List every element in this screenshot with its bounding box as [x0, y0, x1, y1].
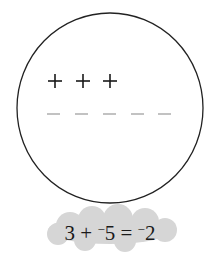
operand-a: 3 [65, 221, 76, 245]
negative-sign-b: − [97, 222, 104, 237]
negative-sign-result: − [138, 222, 145, 237]
equals-sign: = [121, 221, 133, 245]
counter-circle [17, 13, 203, 203]
plus-operator: + [80, 221, 92, 245]
result: 2 [145, 221, 156, 245]
operand-b: 5 [105, 221, 116, 245]
positive-charges [48, 74, 117, 88]
equation: 3 + −5 = −2 [0, 212, 220, 248]
